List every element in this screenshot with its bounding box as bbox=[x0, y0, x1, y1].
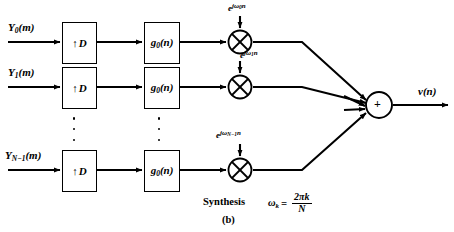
upsampler-block-n-1[interactable]: ↑D bbox=[62, 150, 97, 192]
synthesis-filter-block-0[interactable]: g0(n) bbox=[144, 22, 180, 64]
block-diagram-figure: Y0(m) Y1(m) YN−1(m) ↑D ↑D ↑D g0(n) g0(n)… bbox=[0, 0, 454, 232]
omega-formula: ωk = 2πk N bbox=[268, 192, 312, 214]
synthesis-filter-block-n-1[interactable]: g0(n) bbox=[144, 150, 180, 192]
synthesis-caption: Synthesis bbox=[203, 196, 245, 207]
formula-numerator: 2πk bbox=[292, 192, 311, 204]
vertical-ellipsis-upsamplers bbox=[70, 117, 78, 141]
input-label-0: Y0(m) bbox=[8, 22, 34, 34]
summer-plus-label: + bbox=[374, 98, 381, 110]
synthesis-filter-block-1[interactable]: g0(n) bbox=[144, 67, 180, 109]
vertical-ellipsis-filters bbox=[155, 117, 163, 141]
input-label-n-1: YN−1(m) bbox=[5, 150, 41, 162]
carrier-label-0: ejω0n bbox=[228, 3, 246, 13]
input-label-1: Y1(m) bbox=[8, 67, 34, 79]
carrier-label-1: ejω1n bbox=[240, 50, 258, 60]
subfigure-label: (b) bbox=[222, 214, 235, 225]
formula-denominator: N bbox=[296, 204, 307, 215]
carrier-label-n-1: ejωN−1n bbox=[216, 130, 241, 140]
output-label: v(n) bbox=[418, 86, 436, 97]
upsampler-block-0[interactable]: ↑D bbox=[62, 22, 97, 64]
upsampler-block-1[interactable]: ↑D bbox=[62, 67, 97, 109]
